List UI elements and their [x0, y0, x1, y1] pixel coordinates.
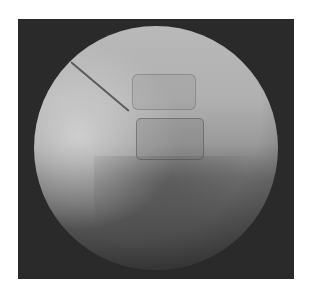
upper-vertebral-body [132, 74, 196, 110]
lower-vertebral-body [136, 118, 204, 160]
needle [70, 61, 129, 112]
soft-tissue-shadow [94, 156, 274, 246]
fluoroscopy-frame [18, 19, 294, 279]
corner-artifact: · [305, 1, 307, 7]
fluoroscopy-field-of-view [34, 26, 278, 270]
